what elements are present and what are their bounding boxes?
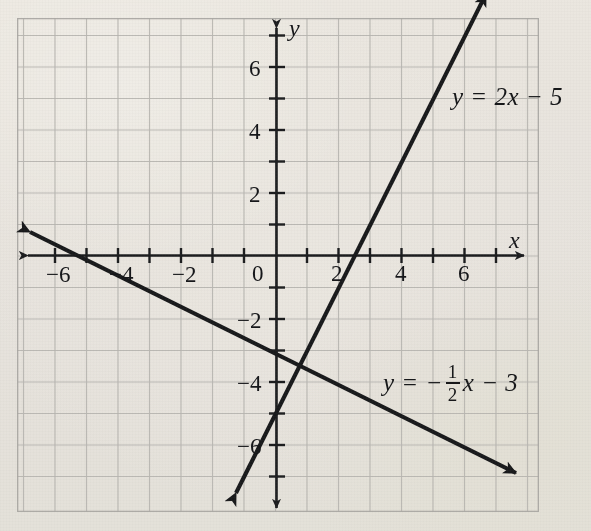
y-axis-label: y [289, 16, 300, 40]
y-tick-label-6: 6 [249, 57, 261, 80]
equation-label-line1: y = 2x − 5 [452, 84, 563, 109]
coordinate-plane-svg [0, 0, 591, 531]
y-tick-label-4: 4 [249, 120, 261, 143]
line-y-equals-neg-half-x-minus-3 [30, 232, 516, 473]
x-tick-label-2: 2 [331, 262, 343, 285]
y-tick-label--2: −2 [237, 309, 261, 332]
line-y-equals-2x-minus-5 [236, 0, 486, 493]
graph-figure: y x −6 −4 −2 0 2 4 6 6 4 2 −2 −4 −6 y = … [0, 0, 591, 531]
fraction-one-half: 1 2 [446, 362, 460, 405]
y-axis [269, 28, 285, 508]
y-tick-label-2: 2 [249, 183, 261, 206]
x-tick-label--6: −6 [46, 263, 70, 286]
x-axis-label: x [509, 228, 520, 252]
x-tick-label-4: 4 [395, 262, 407, 285]
y-tick-label--4: −4 [237, 372, 261, 395]
equation-label-line2: y = − 1 2 x − 3 [383, 361, 518, 404]
x-tick-label-6: 6 [458, 262, 470, 285]
fraction-numerator: 1 [446, 362, 460, 382]
y-tick-label--6: −6 [237, 435, 261, 458]
equation-label-line2-prefix: y = − [383, 370, 443, 395]
fraction-denominator: 2 [446, 382, 460, 404]
equation-label-line2-suffix: x − 3 [463, 370, 518, 395]
origin-label: 0 [252, 262, 264, 285]
x-tick-label--2: −2 [172, 263, 196, 286]
x-tick-label--4: −4 [109, 263, 133, 286]
